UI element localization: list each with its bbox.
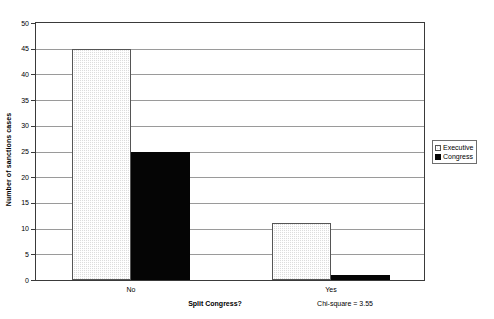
y-tick-label-15: 15 xyxy=(3,199,29,206)
legend-label-congress: Congress xyxy=(443,153,473,161)
legend-item-executive[interactable]: Executive xyxy=(435,143,473,152)
y-tick-label-5: 5 xyxy=(3,251,29,258)
y-tick-label-50: 50 xyxy=(3,20,29,27)
checkered-swatch-icon xyxy=(435,145,441,151)
legend-item-congress[interactable]: Congress xyxy=(435,152,473,161)
legend-label-executive: Executive xyxy=(443,144,473,152)
black-swatch-icon xyxy=(435,154,441,160)
chart-legend: ExecutiveCongress xyxy=(432,140,477,164)
bar-no-congress[interactable] xyxy=(131,152,190,281)
bar-no-executive[interactable] xyxy=(72,49,131,280)
bar-yes-congress[interactable] xyxy=(331,275,390,280)
bar-chart-figure: Number of sanctions cases 50454035302520… xyxy=(0,0,494,319)
gridline-0 xyxy=(36,280,424,281)
y-tick-label-40: 40 xyxy=(3,71,29,78)
plot-area xyxy=(35,22,425,281)
x-axis-title: Split Congress? xyxy=(150,300,280,308)
y-tick-label-30: 30 xyxy=(3,122,29,129)
y-tick-label-25: 25 xyxy=(3,148,29,155)
y-tick-label-10: 10 xyxy=(3,225,29,232)
y-tick-label-0: 0 xyxy=(3,277,29,284)
x-category-label-yes: Yes xyxy=(296,286,366,294)
y-tick-label-20: 20 xyxy=(3,174,29,181)
x-category-label-no: No xyxy=(96,286,166,294)
chi-square-annotation: Chi-square = 3.55 xyxy=(285,300,405,308)
bar-yes-executive[interactable] xyxy=(272,223,331,280)
y-tick-label-35: 35 xyxy=(3,97,29,104)
y-tick-label-45: 45 xyxy=(3,45,29,52)
